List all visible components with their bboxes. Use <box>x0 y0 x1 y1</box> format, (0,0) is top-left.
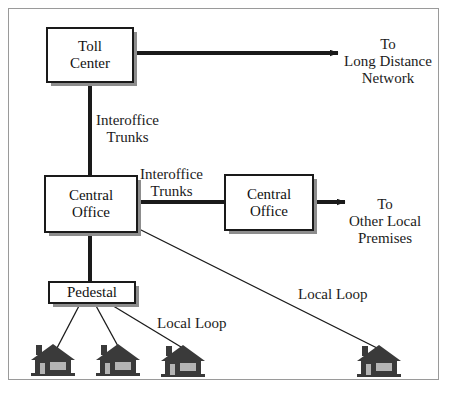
label-interoffice-trunks-vertical-line-2: Trunks <box>96 129 159 146</box>
label-interoffice-trunks-vertical: Interoffice Trunks <box>96 112 159 146</box>
label-destination-other-local: To Other Local Premises <box>349 196 421 246</box>
label-destination-other-local-line-1: To <box>349 196 421 213</box>
node-toll-center-line-2: Center <box>70 55 110 72</box>
label-local-loop-far: Local Loop <box>298 286 368 303</box>
label-interoffice-trunks-horizontal-line-2: Trunks <box>140 183 203 200</box>
network-diagram-canvas: Toll Center Central Office Central Offic… <box>0 0 449 396</box>
label-destination-long-distance-line-1: To <box>344 36 432 53</box>
node-central-office-main[interactable]: Central Office <box>44 175 138 233</box>
label-interoffice-trunks-horizontal-line-1: Interoffice <box>140 166 203 183</box>
node-central-office-remote-line-2: Office <box>250 203 288 220</box>
label-local-loop-near-text: Local Loop <box>157 315 227 332</box>
label-destination-long-distance: To Long Distance Network <box>344 36 432 86</box>
label-destination-other-local-line-2: Other Local <box>349 213 421 230</box>
node-toll-center[interactable]: Toll Center <box>46 27 134 83</box>
node-pedestal[interactable]: Pedestal <box>48 281 136 304</box>
label-local-loop-far-text: Local Loop <box>298 286 368 303</box>
label-destination-long-distance-line-3: Network <box>344 70 432 87</box>
node-toll-center-line-1: Toll <box>78 38 102 55</box>
house-icon[interactable] <box>94 341 142 379</box>
node-central-office-main-line-2: Office <box>72 204 110 221</box>
label-local-loop-near: Local Loop <box>157 315 227 332</box>
label-destination-other-local-line-3: Premises <box>349 230 421 247</box>
house-icon[interactable] <box>159 342 207 380</box>
label-interoffice-trunks-horizontal: Interoffice Trunks <box>140 166 203 200</box>
house-icon[interactable] <box>29 341 77 379</box>
node-pedestal-label: Pedestal <box>67 284 117 301</box>
label-interoffice-trunks-vertical-line-1: Interoffice <box>96 112 159 129</box>
node-central-office-main-line-1: Central <box>69 187 113 204</box>
node-central-office-remote-line-1: Central <box>247 186 291 203</box>
label-destination-long-distance-line-2: Long Distance <box>344 53 432 70</box>
node-central-office-remote[interactable]: Central Office <box>224 174 314 231</box>
house-icon[interactable] <box>355 342 403 380</box>
